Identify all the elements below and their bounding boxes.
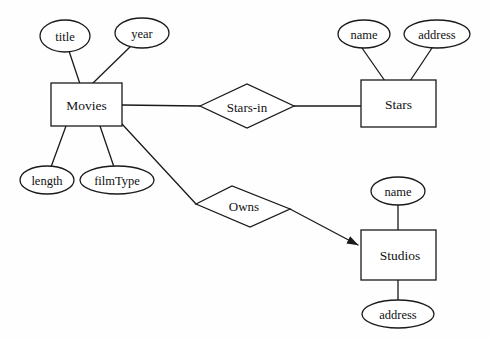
edge-movies-year — [92, 45, 132, 84]
entity-movies-label: Movies — [66, 98, 107, 113]
attribute-stars-address[interactable]: address — [404, 20, 470, 48]
relationship-stars-in[interactable]: Stars-in — [200, 84, 294, 128]
relationship-owns[interactable]: Owns — [196, 186, 290, 227]
attribute-studios-address[interactable]: address — [362, 300, 434, 328]
attribute-studios-name-label: name — [384, 185, 412, 199]
entity-movies[interactable]: Movies — [51, 83, 122, 126]
edge-movies-length — [51, 126, 66, 167]
attribute-length-label: length — [31, 174, 63, 188]
er-diagram-canvas: Movies Stars Studios Stars-in Owns title… — [0, 0, 490, 340]
attribute-year[interactable]: year — [115, 18, 169, 48]
edge-owns-studios — [290, 209, 358, 245]
entity-studios-label: Studios — [380, 248, 421, 263]
attribute-year-label: year — [131, 27, 153, 41]
edge-movies-title — [69, 51, 80, 84]
entity-stars[interactable]: Stars — [361, 80, 436, 127]
er-diagram-svg: Movies Stars Studios Stars-in Owns title… — [0, 0, 490, 340]
entity-studios[interactable]: Studios — [361, 230, 436, 280]
attribute-filmtype-label: filmType — [94, 174, 140, 188]
attribute-title[interactable]: title — [40, 20, 90, 52]
relationship-owns-label: Owns — [229, 199, 259, 214]
attribute-studios-name[interactable]: name — [371, 177, 425, 205]
attribute-title-label: title — [55, 30, 75, 44]
edge-stars-name — [362, 48, 385, 81]
edge-movies-filmtype — [100, 126, 114, 167]
attribute-stars-name[interactable]: name — [338, 20, 390, 48]
attribute-stars-name-label: name — [350, 28, 378, 42]
attribute-studios-address-label: address — [379, 308, 417, 322]
entity-stars-label: Stars — [385, 97, 412, 112]
relationship-stars-in-label: Stars-in — [227, 100, 268, 115]
attribute-stars-address-label: address — [418, 28, 456, 42]
edge-stars-address — [410, 48, 432, 81]
attribute-filmtype[interactable]: filmType — [80, 166, 154, 194]
attribute-length[interactable]: length — [20, 166, 74, 194]
edge-movies-starsin — [122, 105, 200, 106]
